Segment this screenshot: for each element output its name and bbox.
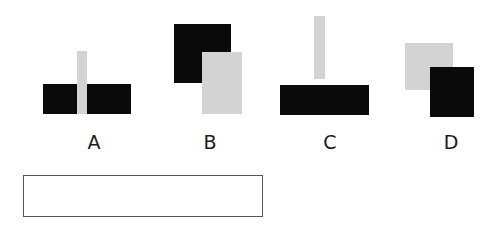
- dark-rectangle: [430, 67, 474, 117]
- answer-box[interactable]: [23, 175, 263, 217]
- dark-rectangle: [280, 85, 369, 115]
- light-rectangle: [202, 52, 242, 114]
- option-label: A: [79, 131, 109, 153]
- dark-rectangle: [87, 84, 131, 114]
- light-rectangle: [77, 51, 87, 114]
- option-label: C: [315, 131, 345, 153]
- light-rectangle: [314, 16, 325, 79]
- option-label: D: [436, 131, 466, 153]
- option-label: B: [195, 131, 225, 153]
- dark-rectangle: [43, 84, 77, 114]
